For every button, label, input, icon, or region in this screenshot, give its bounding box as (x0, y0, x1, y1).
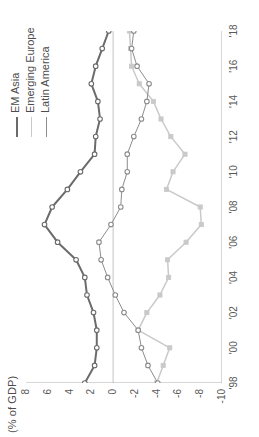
y-tick-label: -10 (217, 389, 227, 415)
x-tick-label: '02 (229, 300, 239, 326)
y-tick-label: -6 (173, 389, 183, 415)
y-tick-label: 4 (65, 389, 75, 415)
rotated-chart-canvas: (% of GDP) EM Asia Emerging Europe Latin… (0, 0, 259, 437)
x-tick-label: '10 (229, 159, 239, 185)
legend-swatch-em-asia (10, 117, 21, 137)
x-tick-label: '14 (229, 88, 239, 114)
y-tick-label: -2 (130, 389, 140, 415)
chart-body: (% of GDP) EM Asia Emerging Europe Latin… (0, 0, 259, 437)
x-tick-label: '04 (229, 264, 239, 290)
y-axis-title: (% of GDP) (6, 376, 18, 433)
legend-item-em-asia: EM Asia (8, 27, 23, 137)
chart-figure: (% of GDP) EM Asia Emerging Europe Latin… (0, 0, 259, 437)
plot-area (26, 31, 222, 383)
legend-label-em-asia: EM Asia (10, 73, 21, 113)
x-tick-label: '00 (229, 335, 239, 361)
x-tick-label: '16 (229, 53, 239, 79)
y-tick-label: 0 (108, 389, 118, 415)
y-tick-label: -8 (195, 389, 205, 415)
x-tick-label: '98 (229, 370, 239, 396)
x-tick-label: '18 (229, 18, 239, 44)
x-tick-label: '06 (229, 229, 239, 255)
y-tick-label: 2 (86, 389, 96, 415)
x-tick-label: '12 (229, 124, 239, 150)
y-tick-label: -4 (152, 389, 162, 415)
y-tick-label: 6 (43, 389, 53, 415)
chart-svg (26, 31, 222, 383)
y-tick-label: 8 (21, 389, 31, 415)
x-tick-label: '08 (229, 194, 239, 220)
